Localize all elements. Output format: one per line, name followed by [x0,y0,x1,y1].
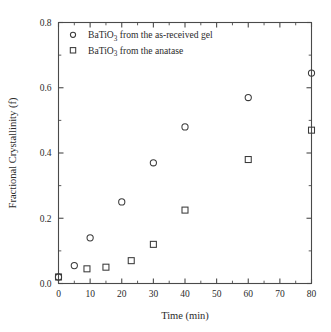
y-tick-label: 0.0 [40,279,52,289]
legend-marker-circle [70,32,75,37]
data-point-circle [245,94,251,100]
legend-label: BaTiO3 from the anatase [88,45,183,59]
legend: BaTiO3 from the as-received gelBaTiO3 fr… [70,29,213,58]
data-point-circle [182,124,188,130]
x-tick-label: 40 [180,289,190,299]
x-tick-label: 30 [149,289,159,299]
y-tick-label: 0.8 [40,18,52,28]
series-2-markers [56,127,315,280]
x-tick-label: 70 [275,289,285,299]
data-point-square [245,157,251,163]
x-tick-label: 0 [56,289,61,299]
x-tick-label: 60 [244,289,254,299]
x-axis-title: Time (min) [161,310,209,322]
y-tick-label: 0.6 [40,83,52,93]
y-tick-label: 0.2 [40,214,52,224]
data-point-square [103,264,109,270]
y-tick-label: 0.4 [40,148,52,158]
chart-figure: 010203040506070800.00.20.40.60.8Time (mi… [0,0,331,332]
data-point-square [84,266,90,272]
data-point-square [128,258,134,264]
data-point-square [182,207,188,213]
x-tick-label: 20 [117,289,127,299]
series-1-markers [55,70,314,280]
data-point-square [150,241,156,247]
legend-label: BaTiO3 from the as-received gel [88,29,213,43]
x-tick-label: 80 [307,289,317,299]
x-tick-label: 50 [212,289,222,299]
data-point-circle [119,199,125,205]
data-point-circle [150,160,156,166]
scatter-plot: 010203040506070800.00.20.40.60.8Time (mi… [0,0,331,332]
x-tick-label: 10 [85,289,95,299]
data-point-circle [71,262,77,268]
y-axis-title: Fractional Crystallinity (f) [7,97,19,208]
plot-frame [59,23,312,284]
data-point-circle [87,235,93,241]
legend-marker-square [70,48,75,53]
